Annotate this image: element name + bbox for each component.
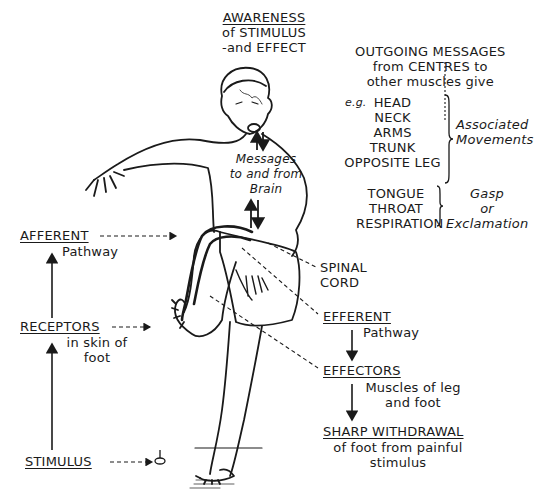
effectors-sub: Muscles of leg and foot <box>358 380 468 410</box>
outgoing-item-opposite-leg: OPPOSITE LEG <box>340 155 445 170</box>
gasp-item-tongue: TONGUE <box>356 186 436 201</box>
outgoing-item-arms: ARMS <box>340 125 445 140</box>
effectors-heading: EFFECTORS <box>323 363 401 378</box>
receptors-sub2: foot <box>62 350 132 365</box>
afferent-heading: AFFERENT <box>20 228 89 243</box>
messages-line3: Brain <box>228 182 304 197</box>
effectors-sub2: and foot <box>358 395 468 410</box>
outgoing-items-list: HEAD NECK ARMS TRUNK OPPOSITE LEG <box>340 95 445 170</box>
withdrawal-heading: SHARP WITHDRAWAL <box>323 424 464 439</box>
awareness-line2: of STIMULUS <box>222 25 306 40</box>
spinal-line2: CORD <box>320 275 367 290</box>
messages-line2: to and from <box>228 167 304 182</box>
outgoing-messages-group: OUTGOING MESSAGES from CENTRES to other … <box>355 44 506 89</box>
spinal-cord-label: SPINAL CORD <box>320 260 367 290</box>
outgoing-line3: other muscles give <box>355 74 506 89</box>
withdrawal-sub2: stimulus <box>318 455 478 470</box>
afferent-sub: Pathway <box>62 244 118 259</box>
gasp-line3: Exclamation <box>446 216 528 231</box>
efferent-sub: Pathway <box>363 325 419 340</box>
messages-line1: Messages <box>228 152 304 167</box>
associated-line2: Movements <box>456 132 533 147</box>
associated-line1: Associated <box>456 117 533 132</box>
effectors-sub1: Muscles of leg <box>358 380 468 395</box>
gasp-item-respiration: RESPIRATION <box>356 216 436 231</box>
withdrawal-sub: of foot from painful stimulus <box>318 440 478 470</box>
gasp-items-list: TONGUE THROAT RESPIRATION <box>356 186 436 231</box>
awareness-line3: -and EFFECT <box>222 40 306 55</box>
outgoing-item-trunk: TRUNK <box>340 140 445 155</box>
stimulus-heading: STIMULUS <box>25 454 92 469</box>
outgoing-line2: from CENTRES to <box>355 59 506 74</box>
outgoing-item-neck: NECK <box>340 110 445 125</box>
outgoing-item-head: HEAD <box>340 95 445 110</box>
receptors-sub: in skin of foot <box>62 335 132 365</box>
awareness-label-group: AWARENESS of STIMULUS -and EFFECT <box>222 10 306 55</box>
gasp-line1: Gasp <box>446 186 528 201</box>
gasp-exclamation-label: Gasp or Exclamation <box>446 186 528 231</box>
standing-leg-drawing <box>190 322 262 488</box>
nerve-pathway-drawing <box>182 226 252 320</box>
spinal-line1: SPINAL <box>320 260 367 275</box>
awareness-heading: AWARENESS <box>222 10 306 25</box>
outgoing-line1: OUTGOING MESSAGES <box>355 44 506 59</box>
gasp-line2: or <box>446 201 528 216</box>
head-drawing <box>221 68 272 134</box>
associated-movements-label: Associated Movements <box>456 117 533 147</box>
shorts-drawing <box>220 232 299 326</box>
efferent-heading: EFFERENT <box>323 309 391 324</box>
tack-stimulus-icon <box>155 450 165 464</box>
gasp-item-throat: THROAT <box>356 201 436 216</box>
receptors-sub1: in skin of <box>62 335 132 350</box>
receptors-heading: RECEPTORS <box>20 319 100 334</box>
withdrawal-sub1: of foot from painful <box>318 440 478 455</box>
brain-messages-label: Messages to and from Brain <box>228 152 304 197</box>
